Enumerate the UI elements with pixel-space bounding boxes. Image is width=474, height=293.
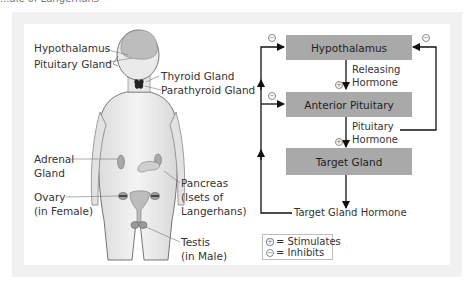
stimulates-sign-icon: + bbox=[335, 138, 343, 146]
legend-inhibits-label: = Inhibits bbox=[276, 247, 324, 258]
minus-circle-icon: − bbox=[266, 249, 274, 257]
box-anterior-pituitary-label: Anterior Pituitary bbox=[304, 99, 394, 111]
label-ovary-line2: (in Female) bbox=[34, 205, 93, 218]
releasing-hormone-line2: Hormone bbox=[352, 77, 398, 90]
label-testis-line2: (in Male) bbox=[181, 250, 227, 263]
label-ovary-line1: Ovary bbox=[34, 191, 65, 204]
inhibits-sign-icon: − bbox=[268, 92, 276, 100]
label-thyroid-gland: Thyroid Gland bbox=[161, 70, 235, 83]
plus-circle-icon: + bbox=[266, 238, 274, 246]
label-pancreas-line2: (Isets of bbox=[181, 191, 223, 204]
legend-stimulates-label: = Stimulates bbox=[276, 236, 341, 247]
label-pancreas-line1: Pancreas bbox=[181, 177, 228, 190]
label-parathyroid-gland: Parathyroid Gland bbox=[161, 84, 255, 97]
label-testis-line1: Testis bbox=[181, 236, 210, 249]
legend: + = Stimulates − = Inhibits bbox=[262, 234, 333, 260]
releasing-hormone-line1: Releasing bbox=[352, 64, 400, 77]
box-target-gland-label: Target Gland bbox=[316, 156, 383, 168]
inhibits-sign-icon: − bbox=[268, 34, 276, 42]
box-hypothalamus-label: Hypothalamus bbox=[311, 42, 387, 54]
target-gland-hormone-label: Target Gland Hormone bbox=[294, 207, 407, 220]
box-target-gland: Target Gland bbox=[286, 148, 412, 175]
label-adrenal-line1: Adrenal bbox=[34, 153, 74, 166]
label-adrenal-line2: Gland bbox=[34, 167, 65, 180]
label-pituitary-gland: Pituitary Gland bbox=[34, 58, 112, 71]
box-hypothalamus: Hypothalamus bbox=[286, 35, 412, 60]
label-hypothalamus: Hypothalamus bbox=[34, 42, 110, 55]
label-pancreas-line3: Langerhans) bbox=[181, 205, 247, 218]
stimulates-sign-icon: + bbox=[335, 81, 343, 89]
inhibits-sign-icon: − bbox=[422, 34, 430, 42]
cut-off-caption: ...ale of Langerhans bbox=[0, 0, 99, 4]
box-anterior-pituitary: Anterior Pituitary bbox=[286, 92, 412, 117]
pituitary-hormone-line2: Hormone bbox=[352, 134, 398, 147]
legend-inhibits: − = Inhibits bbox=[266, 247, 329, 258]
legend-stimulates: + = Stimulates bbox=[266, 236, 329, 247]
pituitary-hormone-line1: Pituitary bbox=[352, 121, 394, 134]
